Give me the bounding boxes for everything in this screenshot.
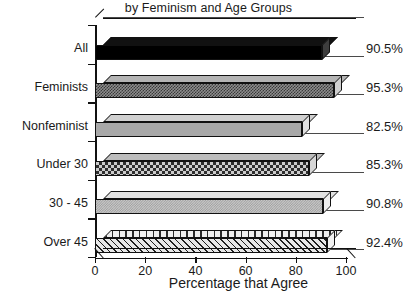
bar-top-face <box>103 230 343 238</box>
floor-left-edge <box>95 248 105 259</box>
floor-right-edge <box>347 248 357 259</box>
chart-title: by Feminism and Age Groups <box>0 1 417 15</box>
bar-front-face <box>95 45 322 60</box>
x-axis-tick <box>195 257 196 263</box>
category-label-30-45: 30 - 45 <box>0 196 88 210</box>
category-label-under-30: Under 30 <box>0 157 88 171</box>
y-axis-tick <box>88 257 95 258</box>
bar-value-label: 95.3% <box>366 80 403 95</box>
bar-front-face <box>95 199 323 214</box>
x-axis-tick <box>145 257 146 263</box>
category-label-over-45: Over 45 <box>0 235 88 249</box>
bar <box>95 45 322 60</box>
category-separator <box>103 17 364 18</box>
y-axis-tick <box>88 218 95 219</box>
x-axis-line <box>95 258 348 260</box>
x-axis-tick <box>246 257 247 263</box>
bar-top-face <box>103 37 338 45</box>
bar-front-face <box>95 238 327 253</box>
bar <box>95 122 302 137</box>
y-axis-tick <box>88 64 95 65</box>
bar <box>95 199 323 214</box>
bar-top-face <box>103 114 318 122</box>
y-axis-tick <box>88 25 95 26</box>
bar-top-face <box>103 191 339 199</box>
y-axis-tick <box>88 141 95 142</box>
y-axis-tick <box>88 180 95 181</box>
bar <box>95 83 334 98</box>
bar-front-face <box>95 161 309 176</box>
bar-value-label: 90.8% <box>366 196 403 211</box>
bar-chart: by Feminism and Age Groups 020406080100 … <box>0 0 417 296</box>
x-axis-tick <box>95 257 96 263</box>
bar-value-label: 92.4% <box>366 234 403 249</box>
bar-value-label: 85.3% <box>366 157 403 172</box>
category-label-nonfeminist: Nonfeminist <box>0 119 88 133</box>
bar <box>95 161 309 176</box>
bar-value-label: 82.5% <box>366 118 403 133</box>
y-axis-tick <box>88 102 95 103</box>
bar <box>95 238 327 253</box>
bar-value-label: 90.5% <box>366 41 403 56</box>
bar-top-face <box>103 75 350 83</box>
bar-front-face <box>95 83 334 98</box>
x-axis-tick <box>296 257 297 263</box>
category-label-all: All <box>0 41 88 55</box>
category-label-feminists: Feminists <box>0 80 88 94</box>
bar-front-face <box>95 122 302 137</box>
x-axis-title: Percentage that Agree <box>60 275 417 291</box>
y-axis-line <box>95 25 97 257</box>
bar-top-face <box>103 153 325 161</box>
x-axis-back-edge <box>103 248 356 249</box>
x-axis-tick <box>346 257 347 263</box>
